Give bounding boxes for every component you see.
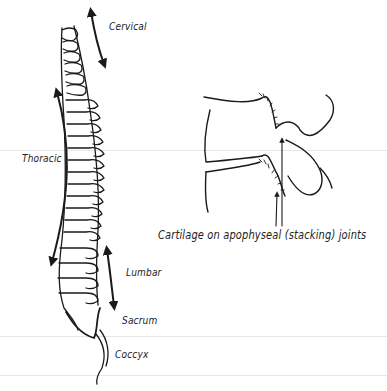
apophyseal-joint-detail xyxy=(204,93,333,226)
label-thoracic: Thoracic xyxy=(22,152,62,165)
lumbar-vertebrae xyxy=(58,248,98,304)
label-lumbar: Lumbar xyxy=(126,266,161,279)
spine-illustration xyxy=(0,0,387,391)
spine-diagram: Cervical Thoracic Lumbar Sacrum Coccyx C… xyxy=(0,0,387,391)
label-sacrum: Sacrum xyxy=(122,314,157,327)
detail-caption: Cartilage on apophyseal (stacking) joint… xyxy=(158,228,366,242)
label-coccyx: Coccyx xyxy=(115,348,148,361)
label-cervical: Cervical xyxy=(109,20,147,33)
